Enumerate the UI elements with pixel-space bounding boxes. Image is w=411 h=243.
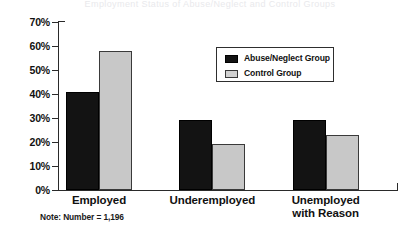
y-axis-tick-label: 10% [2, 161, 50, 172]
legend-label-abuse-neglect-group: Abuse/Neglect Group [244, 54, 330, 63]
x-axis-category-label-line: with Reason [266, 207, 386, 220]
legend-label-control-group: Control Group [244, 69, 301, 78]
legend-item-control-group: Control Group [225, 67, 333, 80]
legend: Abuse/Neglect Group Control Group [216, 47, 334, 82]
y-axis-tick-label: 50% [2, 65, 50, 76]
x-axis-category-label: Unemployedwith Reason [266, 194, 386, 219]
chart-figure: Employment Status of Abuse/Neglect and C… [0, 0, 411, 243]
x-axis-category-label-line: Underemployed [152, 194, 272, 207]
y-axis-tick-label: 30% [2, 113, 50, 124]
y-axis-tick-label: 60% [2, 41, 50, 52]
bar-control-2 [326, 135, 359, 190]
bar-abuse-neglect-1 [179, 120, 212, 190]
x-axis-category-label-line: Employed [39, 194, 159, 207]
y-axis-tick-label: 40% [2, 89, 50, 100]
y-axis-tick-label: 70% [2, 17, 50, 28]
legend-swatch-icon-abuse-neglect-group [225, 55, 238, 63]
legend-swatch-icon-control-group [225, 70, 238, 78]
figure-note: Note: Number = 1,196 [40, 212, 124, 222]
bar-abuse-neglect-0 [66, 92, 99, 190]
legend-item-abuse-neglect-group: Abuse/Neglect Group [225, 52, 333, 65]
bar-control-1 [212, 144, 245, 190]
y-axis-labels: 70%60%50%40%30%20%10%0% [0, 0, 50, 243]
bar-control-0 [99, 51, 132, 190]
figure-title: Employment Status of Abuse/Neglect and C… [40, 0, 380, 9]
x-axis-category-label: Underemployed [152, 194, 272, 207]
x-axis-category-label-line: Unemployed [266, 194, 386, 207]
y-axis-tick-label: 20% [2, 137, 50, 148]
x-axis-category-label: Employed [39, 194, 159, 207]
bar-abuse-neglect-2 [293, 120, 326, 190]
